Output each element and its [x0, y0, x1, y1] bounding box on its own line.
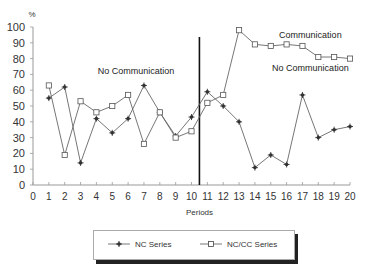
square-marker	[332, 54, 337, 59]
square-marker	[126, 92, 131, 97]
square-marker	[62, 152, 67, 157]
x-tick-label: 3	[78, 191, 84, 202]
square-marker	[284, 42, 289, 47]
star-marker-icon	[108, 239, 130, 249]
x-tick-label: 9	[173, 191, 179, 202]
x-tick-label: 8	[157, 191, 163, 202]
x-tick-label: 20	[344, 191, 356, 202]
star-marker	[78, 160, 84, 166]
chart-annotation: Communication	[279, 30, 342, 40]
x-tick-label: 17	[297, 191, 309, 202]
square-marker	[300, 43, 305, 48]
y-tick-label: 60	[13, 84, 25, 96]
legend-item-nc: NC Series	[108, 239, 171, 249]
y-tick-label: 10	[13, 163, 25, 175]
x-tick-label: 5	[109, 191, 115, 202]
legend-label-nccc: NC/CC Series	[227, 240, 277, 249]
x-tick-label: 18	[313, 191, 325, 202]
x-tick-label: 2	[62, 191, 68, 202]
chart-annotation: No Communication	[98, 66, 175, 76]
square-marker	[157, 110, 162, 115]
y-axis-label: %	[28, 10, 35, 19]
star-marker	[315, 135, 321, 141]
x-tick-label: 0	[30, 191, 36, 202]
y-tick-label: 20	[13, 147, 25, 159]
x-tick-label: 15	[265, 191, 277, 202]
line-chart: 0102030405060708090100%01234567891011121…	[0, 0, 367, 230]
square-marker	[316, 54, 321, 59]
x-tick-label: 1	[46, 191, 52, 202]
y-tick-label: 50	[13, 100, 25, 112]
square-marker	[189, 129, 194, 134]
square-marker	[205, 100, 210, 105]
square-marker	[221, 92, 226, 97]
x-tick-label: 14	[249, 191, 261, 202]
square-marker	[268, 43, 273, 48]
square-marker	[78, 99, 83, 104]
x-tick-label: 19	[329, 191, 341, 202]
y-tick-label: 70	[13, 68, 25, 80]
star-marker	[331, 127, 337, 133]
star-marker	[299, 92, 305, 98]
square-marker	[236, 28, 241, 33]
y-tick-label: 30	[13, 132, 25, 144]
chart-legend: NC Series NC/CC Series	[93, 230, 295, 260]
square-marker	[173, 135, 178, 140]
square-marker	[94, 110, 99, 115]
x-tick-label: 12	[218, 191, 230, 202]
y-tick-label: 100	[7, 21, 25, 33]
chart-annotation: No Communication	[272, 63, 349, 73]
square-marker	[46, 83, 51, 88]
square-marker	[252, 42, 257, 47]
y-tick-label: 90	[13, 37, 25, 49]
y-tick-label: 40	[13, 116, 25, 128]
legend-item-nccc: NC/CC Series	[200, 239, 277, 249]
x-tick-label: 7	[141, 191, 147, 202]
y-tick-label: 80	[13, 53, 25, 65]
x-tick-label: 11	[202, 191, 213, 202]
legend-label-nc: NC Series	[135, 240, 171, 249]
x-axis-label: Periods	[186, 208, 213, 217]
x-tick-label: 10	[186, 191, 198, 202]
square-marker	[347, 56, 352, 61]
square-marker-icon	[200, 239, 222, 249]
star-marker	[141, 82, 147, 88]
star-marker	[62, 84, 68, 90]
x-tick-label: 16	[281, 191, 293, 202]
x-tick-label: 13	[233, 191, 245, 202]
star-marker	[284, 161, 290, 167]
square-marker	[141, 141, 146, 146]
star-marker	[347, 124, 353, 130]
square-marker	[110, 103, 115, 108]
y-tick-label: 0	[19, 179, 25, 191]
x-tick-label: 4	[94, 191, 100, 202]
x-tick-label: 6	[125, 191, 131, 202]
